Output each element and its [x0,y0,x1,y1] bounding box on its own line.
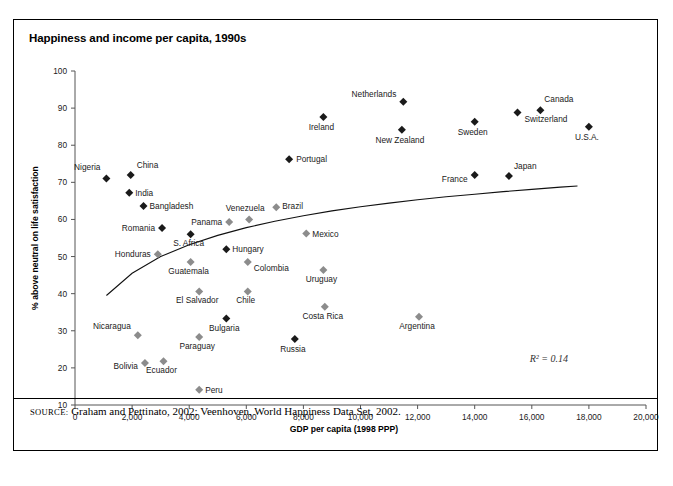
data-point-label: Colombia [254,263,289,273]
y-tick-label: 70 [58,177,68,187]
data-point-marker [272,203,280,211]
source-divider [14,398,657,399]
x-axis-title: GDP per capita (1998 PPP) [290,424,398,434]
data-point-label: Ireland [309,122,335,132]
y-tick-label: 50 [58,252,68,262]
data-point-label: India [135,188,153,198]
data-point-marker [187,258,195,266]
data-point-label: Hungary [232,244,264,254]
data-point-label: Romania [122,223,156,233]
source-note: SOURCE: Graham and Pettinato, 2002; Veen… [30,405,401,417]
data-point-marker [505,172,513,180]
y-tick-label: 30 [58,326,68,336]
data-point-marker [319,113,327,121]
y-axis-title: % above neutral on life satisfaction [30,166,40,310]
data-point-marker [140,202,148,210]
data-point-marker [399,98,407,106]
y-axis: 102030405060708090100 [53,66,75,410]
data-point-marker [134,331,142,339]
data-point-marker [225,218,233,226]
data-point-label: Uruguay [306,274,338,284]
data-point-marker [195,287,203,295]
data-point-label: Japan [514,161,537,171]
data-point-label: Honduras [115,249,151,259]
source-label: SOURCE: [30,407,68,417]
data-point-marker [514,109,522,117]
data-point-marker [415,313,423,321]
x-tick-label: 18,000 [576,412,602,422]
data-point-label: Argentina [399,321,435,331]
data-point-label: Costa Rica [303,311,344,321]
data-point-marker [319,266,327,274]
data-point-label: Nicaragua [93,321,131,331]
data-point-label: Portugal [296,154,327,164]
data-point-marker [158,224,166,232]
data-point-label: Paraguay [179,341,215,351]
data-point-label: Nigeria [74,162,101,172]
data-point-label: Ecuador [146,365,177,375]
data-point-label: China [137,160,159,170]
data-point-marker [195,386,203,394]
data-point-marker [127,171,135,179]
data-point-marker [244,258,252,266]
data-point-marker [285,155,293,163]
x-tick-label: 20,000 [633,412,659,422]
data-point-marker [195,333,203,341]
x-tick-label: 14,000 [462,412,488,422]
data-point-marker [585,123,593,131]
data-point-marker [125,189,133,197]
data-point-marker [291,335,299,343]
data-point-marker [222,245,230,253]
data-point-label: France [442,174,468,184]
data-point-marker [471,171,479,179]
data-point-marker [244,287,252,295]
y-tick-label: 100 [53,66,67,76]
x-tick-label: 16,000 [519,412,545,422]
source-text: Graham and Pettinato, 2002; Veenhoven, W… [68,405,400,417]
data-point-label: New Zealand [375,135,424,145]
data-point-marker [187,230,195,238]
point-labels: NigeriaChinaIndiaBangladeshRomaniaS. Afr… [74,89,599,395]
data-point-label: Russia [280,344,306,354]
chart-annotations: R² = 0.14 [529,353,568,364]
data-point-marker [102,175,110,183]
data-point-label: Switzerland [525,114,568,124]
y-tick-label: 20 [58,363,68,373]
y-tick-label: 90 [58,103,68,113]
data-point-label: S. Africa [173,238,204,248]
data-point-label: Bangladesh [150,201,194,211]
data-point-marker [471,118,479,126]
y-tick-label: 80 [58,140,68,150]
scatter-plot: 102030405060708090100 02,0004,0006,0008,… [14,20,659,452]
data-point-label: Venezuela [226,203,265,213]
y-tick-label: 40 [58,289,68,299]
data-point-label: Netherlands [352,89,397,99]
chart-area: 102030405060708090100 02,0004,0006,0008,… [14,20,659,452]
data-point-label: Mexico [312,229,339,239]
data-point-label: El Salvador [176,295,219,305]
data-point-label: Panama [191,217,222,227]
data-point-label: Brazil [282,201,303,211]
data-point-marker [245,215,253,223]
data-point-label: Bolivia [113,361,138,371]
data-point-label: Sweden [458,127,488,137]
data-point-marker [321,303,329,311]
data-point-marker [302,230,310,238]
data-point-label: U.S.A. [575,132,599,142]
data-point-marker [398,126,406,134]
data-point-label: Bulgaria [209,323,240,333]
figure-panel: Happiness and income per capita, 1990s 1… [13,19,658,451]
data-point-label: Guatemala [168,266,209,276]
y-tick-label: 60 [58,214,68,224]
data-point-marker [160,357,168,365]
data-point-label: Canada [544,94,573,104]
data-point-label: Chile [236,295,255,305]
data-point-marker [222,315,230,323]
r-squared-annotation: R² = 0.14 [529,353,568,364]
x-tick-label: 12,000 [405,412,431,422]
data-point-label: Peru [205,385,223,395]
